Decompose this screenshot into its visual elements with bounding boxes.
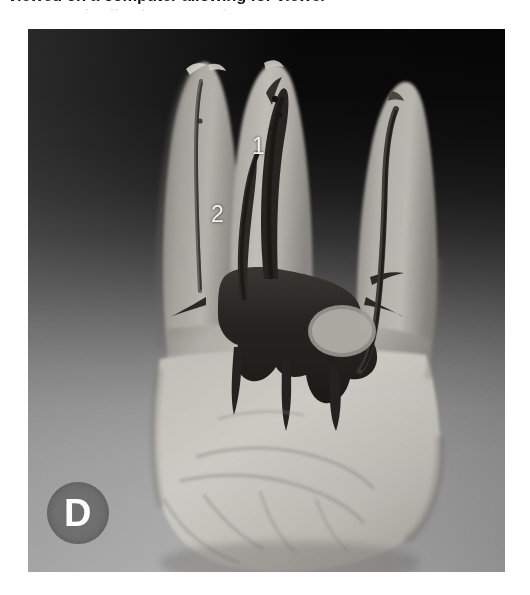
caption-line-1: viewed on a computer allowing for viewer <box>8 0 530 5</box>
caption-line-2: standardized root canal anatomy <box>46 6 516 25</box>
panel-scan-noise-overlay <box>28 29 505 572</box>
figure-caption-strip: viewed on a computer allowing for viewer… <box>0 0 530 26</box>
figure-panel-d: 1 2 D <box>28 29 505 572</box>
